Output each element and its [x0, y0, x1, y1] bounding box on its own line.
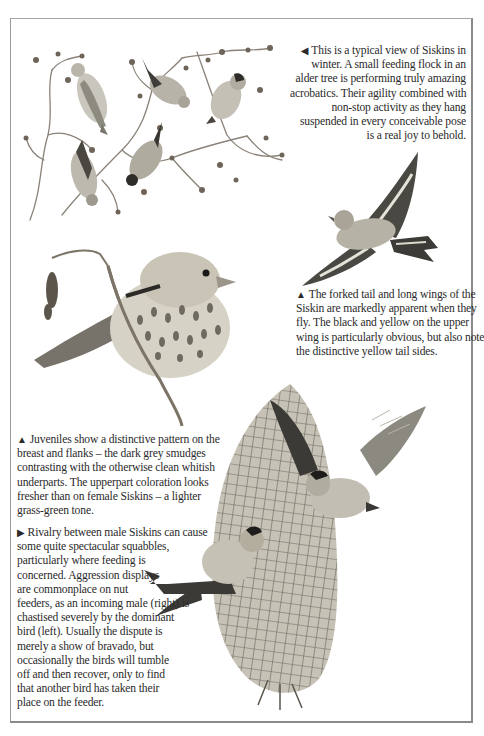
up-triangle-icon: ▲ [296, 289, 306, 300]
left-triangle-icon: ◀ [301, 45, 309, 56]
flock-illustration [22, 40, 297, 225]
caption-flock: ◀This is a typical view of Siskins in wi… [290, 44, 466, 143]
caption-rivalry: ▶Rivalry between male Siskins can cause … [17, 526, 203, 711]
flight-illustration [300, 148, 445, 288]
up-triangle-icon: ▲ [17, 434, 27, 445]
right-triangle-icon: ▶ [17, 527, 25, 538]
caption-juvenile: ▲Juveniles show a distinctive pattern on… [17, 433, 245, 518]
caption-flight: ▲The forked tail and long wings of the S… [296, 288, 476, 359]
